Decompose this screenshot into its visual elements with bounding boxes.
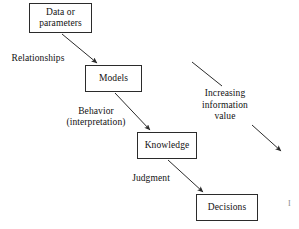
node-knowledge[interactable]: Knowledge bbox=[137, 132, 197, 159]
node-data-or-parameters[interactable]: Data or parameters bbox=[29, 3, 92, 33]
page-margin-glyph: I bbox=[288, 200, 291, 208]
flow-diagram: Data or parameters Models Knowledge Deci… bbox=[0, 0, 299, 229]
annotation-upper-stroke bbox=[192, 62, 222, 86]
node-models[interactable]: Models bbox=[85, 65, 142, 92]
edge-label-behavior-interpretation: Behavior (interpretation) bbox=[54, 106, 138, 128]
edge-label-relationships: Relationships bbox=[2, 53, 74, 64]
node-decisions[interactable]: Decisions bbox=[196, 194, 258, 221]
annotation-increasing-information-value: Increasing information value bbox=[196, 88, 254, 123]
annotation-lower-arrow bbox=[252, 125, 281, 151]
edge-label-judgment: Judgment bbox=[122, 173, 180, 184]
